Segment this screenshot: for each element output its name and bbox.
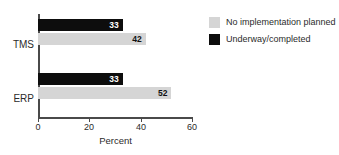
x-axis-title: Percent: [38, 135, 193, 146]
bar-tms-underway-completed[interactable]: 33: [38, 19, 123, 31]
x-tick-label-20: 20: [84, 122, 94, 133]
bar-value-erp-no-implementation-planned: 52: [158, 87, 167, 99]
x-tick-label-0: 0: [35, 122, 40, 133]
legend-swatch-light: [209, 17, 220, 28]
bar-value-tms-underway-completed: 33: [109, 19, 118, 31]
category-label-tms: TMS: [0, 39, 34, 50]
bar-value-tms-no-implementation-planned: 42: [132, 33, 141, 45]
category-label-erp: ERP: [0, 93, 34, 104]
bar-chart: 0 20 40 60 Percent TMS ERP 33 42 33 52 N…: [0, 0, 339, 155]
legend-item-underway-completed[interactable]: Underway/completed: [209, 33, 337, 46]
bar-tms-no-implementation-planned[interactable]: 42: [38, 33, 146, 45]
x-tick-label-60: 60: [187, 122, 197, 133]
legend-label-no-implementation-planned: No implementation planned: [226, 17, 336, 28]
legend-item-no-implementation-planned[interactable]: No implementation planned: [209, 16, 337, 29]
bar-erp-no-implementation-planned[interactable]: 52: [38, 87, 171, 99]
bar-erp-underway-completed[interactable]: 33: [38, 73, 123, 85]
legend-label-underway-completed: Underway/completed: [226, 34, 311, 45]
bar-value-erp-underway-completed: 33: [109, 73, 118, 85]
x-axis-line: [38, 117, 193, 119]
category-labels: TMS ERP: [0, 14, 34, 114]
legend-swatch-dark: [209, 34, 220, 45]
legend: No implementation planned Underway/compl…: [209, 16, 337, 50]
plot-area: 33 42 33 52: [38, 14, 192, 114]
x-tick-label-40: 40: [136, 122, 146, 133]
